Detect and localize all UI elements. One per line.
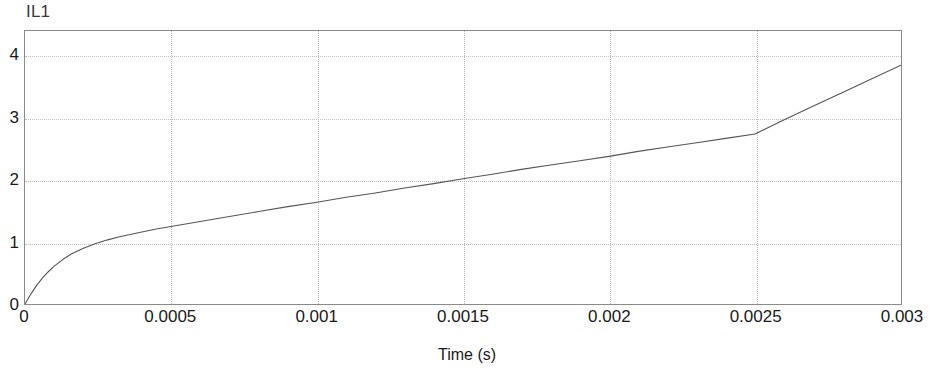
y-axis-tick-labels: 01234	[0, 30, 19, 305]
plot-area	[24, 30, 902, 305]
y-tick-label: 3	[1, 108, 19, 128]
x-tick-label: 0.001	[295, 307, 338, 327]
y-tick-label: 0	[1, 295, 19, 315]
x-tick-label: 0	[19, 307, 28, 327]
chart-screenshot: IL1 01234 00.00050.0010.00150.0020.00250…	[0, 0, 934, 378]
data-curve-layer	[25, 31, 901, 304]
y-tick-label: 4	[1, 45, 19, 65]
y-tick-label: 2	[1, 170, 19, 190]
data-curve-svg	[25, 31, 901, 304]
series-line-il1	[25, 65, 901, 304]
x-tick-label: 0.0005	[144, 307, 196, 327]
x-tick-label: 0.0025	[730, 307, 782, 327]
y-tick-label: 1	[1, 233, 19, 253]
x-tick-label: 0.0015	[437, 307, 489, 327]
x-axis-tick-labels: 00.00050.0010.00150.0020.00250.003	[24, 307, 902, 333]
x-axis-label: Time (s)	[0, 346, 934, 364]
series-title: IL1	[26, 2, 50, 22]
x-tick-label: 0.002	[588, 307, 631, 327]
x-tick-label: 0.003	[881, 307, 924, 327]
